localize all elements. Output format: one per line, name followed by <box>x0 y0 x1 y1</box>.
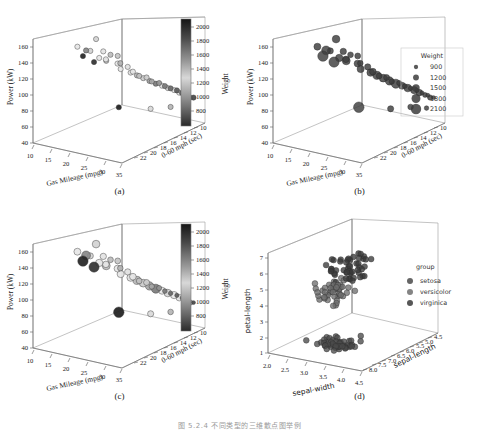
data-point <box>351 254 357 260</box>
data-point <box>75 44 80 49</box>
data-point <box>328 268 334 274</box>
data-point <box>116 105 121 110</box>
legend-marker <box>413 75 419 81</box>
ytick: 140 <box>18 59 33 66</box>
panel-b-ytick-labels: 160 140 120 100 80 60 40 <box>258 43 273 146</box>
data-point <box>403 84 408 89</box>
svg-text:10: 10 <box>440 124 447 131</box>
panel-c-colorbar-ticks: 2000 1800 1600 1400 1200 1000 800 <box>191 228 210 319</box>
svg-text:1000: 1000 <box>196 93 210 100</box>
ytick: 4 <box>260 302 268 309</box>
svg-text:22: 22 <box>140 154 147 161</box>
data-point <box>337 259 343 265</box>
panel-a-colorbar-ticks: 2000 1800 1600 1400 1200 1000 800 <box>191 23 210 114</box>
data-point <box>130 273 137 280</box>
svg-text:40: 40 <box>21 344 28 351</box>
data-point <box>389 79 394 84</box>
data-point <box>355 261 361 267</box>
legend-label: 900 <box>430 63 442 71</box>
svg-text:10: 10 <box>200 124 207 131</box>
data-point <box>355 53 361 59</box>
data-point <box>168 309 174 315</box>
ytick: 120 <box>18 280 33 287</box>
legend-label: 1800 <box>430 95 446 103</box>
data-point <box>315 289 321 295</box>
ytick: 140 <box>258 59 273 66</box>
data-point <box>330 303 336 309</box>
ytick: 100 <box>18 296 33 303</box>
ytick: 100 <box>18 91 33 98</box>
svg-text:10: 10 <box>27 357 34 364</box>
xtick: 25 <box>81 362 88 376</box>
data-point <box>157 285 162 290</box>
data-point <box>420 91 424 95</box>
svg-text:15: 15 <box>45 361 52 368</box>
ztick: 22 <box>134 359 147 366</box>
data-point <box>349 344 355 350</box>
ytick: 60 <box>261 123 273 130</box>
svg-text:8.0: 8.0 <box>369 366 378 373</box>
svg-text:7: 7 <box>260 254 264 261</box>
data-point <box>103 261 110 268</box>
xtick: 10 <box>267 145 274 159</box>
data-point <box>144 279 150 285</box>
panel-c-caption: (c) <box>0 391 239 401</box>
ytick: 120 <box>18 75 33 82</box>
xtick: 2.5 <box>281 359 290 373</box>
svg-text:6: 6 <box>260 270 264 277</box>
ytick: 80 <box>21 312 33 319</box>
data-point <box>348 52 354 58</box>
ztick: 8.0 <box>363 366 378 373</box>
data-point <box>355 267 361 273</box>
legend-label: 1200 <box>430 74 446 82</box>
svg-text:4.5: 4.5 <box>355 379 364 386</box>
xtick: 15 <box>285 149 292 163</box>
svg-text:35: 35 <box>116 376 123 383</box>
data-point <box>91 59 96 64</box>
svg-text:2: 2 <box>260 334 263 341</box>
panel-d-svg: 7 6 5 4 3 2 1 petal-length 2.0 2.5 3.0 3… <box>240 205 479 410</box>
svg-text:1600: 1600 <box>196 256 210 263</box>
svg-text:120: 120 <box>18 75 29 82</box>
data-point <box>408 86 412 90</box>
ytick: 160 <box>18 43 33 50</box>
svg-text:1200: 1200 <box>196 79 210 86</box>
data-point <box>329 57 339 67</box>
xtick: 3.5 <box>319 366 328 380</box>
xtick: 35 <box>116 369 123 383</box>
svg-text:1800: 1800 <box>196 242 210 249</box>
data-point <box>370 68 377 75</box>
data-point <box>368 256 374 262</box>
svg-text:3: 3 <box>260 318 264 325</box>
svg-text:22: 22 <box>380 154 387 161</box>
data-point <box>148 106 153 111</box>
data-point <box>118 66 123 71</box>
data-point <box>365 64 371 70</box>
xtick: 35 <box>356 164 363 178</box>
xtick: 20 <box>303 153 310 167</box>
xtick: 4.0 <box>337 369 346 383</box>
data-point <box>339 343 345 349</box>
xtick: 10 <box>27 350 34 364</box>
data-point <box>92 240 100 248</box>
data-point <box>331 348 337 354</box>
svg-text:1: 1 <box>260 349 263 356</box>
ytick: 60 <box>21 328 33 335</box>
svg-text:800: 800 <box>196 107 207 114</box>
svg-text:1000: 1000 <box>196 298 210 305</box>
ztick: 22 <box>134 154 147 161</box>
svg-text:20: 20 <box>63 160 70 167</box>
xtick: 10 <box>27 145 34 159</box>
svg-text:800: 800 <box>196 312 207 319</box>
svg-text:10: 10 <box>27 152 34 159</box>
data-point <box>349 269 355 275</box>
data-point <box>125 269 131 275</box>
data-point <box>354 102 365 113</box>
panel-c-colorbar: 2000 1800 1600 1400 1200 1000 800 Weight <box>181 224 230 331</box>
data-point <box>149 284 154 289</box>
panel-b-xlabel: Gas Mileage (mpg) <box>285 167 344 188</box>
svg-text:10: 10 <box>267 152 274 159</box>
svg-text:35: 35 <box>116 171 123 178</box>
svg-text:22: 22 <box>140 359 147 366</box>
data-point <box>168 86 173 91</box>
